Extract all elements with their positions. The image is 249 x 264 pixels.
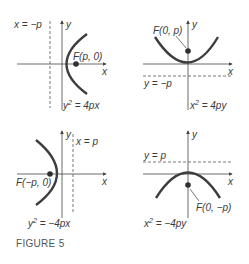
x-axis-label: x xyxy=(101,176,108,187)
y-axis-label: y xyxy=(65,129,72,140)
equation: y2 = 4px xyxy=(62,99,100,111)
focus-point xyxy=(185,48,191,54)
panel-left-opening: y x = p F(−p, 0) x y2 = −4px xyxy=(16,129,108,229)
panel-down-opening: y y = p x F(0, −p) x2 = −4py xyxy=(143,129,234,229)
figure-caption: FIGURE 5 xyxy=(16,238,65,249)
y-axis-label: y xyxy=(191,19,198,30)
equation: x2 = 4py xyxy=(189,99,227,111)
panel-up-opening: F(0, p) y x y = −p x2 = 4py xyxy=(143,19,234,111)
directrix-label: y = −p xyxy=(143,78,172,89)
figure-5-parabolas: x = −p y F(p, 0) x y2 = 4px F(0, p) y x … xyxy=(0,0,249,264)
focus-point xyxy=(47,171,53,177)
focus-label: F(p, 0) xyxy=(73,51,102,62)
focus-leader-line xyxy=(190,189,199,201)
panel-right-opening: x = −p y F(p, 0) x y2 = 4px xyxy=(13,19,108,111)
x-axis-label: x xyxy=(227,66,234,77)
x-axis-label: x xyxy=(101,66,108,77)
y-axis-label: y xyxy=(191,129,198,140)
parabola-curve xyxy=(36,140,57,205)
focus-label: F(0, −p) xyxy=(196,202,231,213)
y-axis-label: y xyxy=(65,19,72,30)
equation: y2 = −4px xyxy=(27,217,71,229)
focus-label: F(0, p) xyxy=(153,25,182,36)
directrix-label: y = p xyxy=(143,150,166,161)
directrix-label: x = −p xyxy=(13,19,42,30)
focus-point xyxy=(73,61,79,67)
directrix-label: x = p xyxy=(75,136,98,147)
focus-label: F(−p, 0) xyxy=(16,177,51,188)
x-axis-label: x xyxy=(227,176,234,187)
equation: x2 = −4py xyxy=(143,217,187,229)
focus-point xyxy=(185,182,191,188)
focus-leader-line xyxy=(176,36,186,48)
